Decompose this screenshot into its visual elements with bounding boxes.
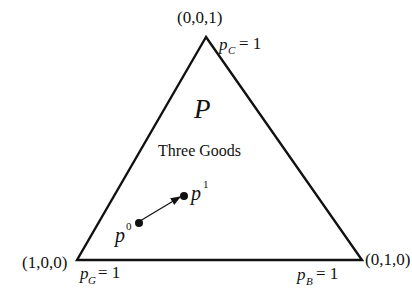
vertex-bottom-right-price-var: p [296,265,306,284]
vertex-bottom-right-coord: (0,1,0) [365,250,410,269]
vertex-top-price-sub: C [228,44,236,56]
price-simplex-diagram: (0,0,1) p C = 1 (1,0,0) p G = 1 (0,1,0) … [0,0,412,303]
point-p0-label: p [113,224,125,247]
vertex-bottom-right-price-eq: = 1 [316,264,338,283]
point-p0 [135,219,143,227]
point-p1-superscript: 1 [203,178,209,190]
vertex-top-price-eq: = 1 [239,34,261,53]
vertex-top-price-var: p [218,35,228,54]
vertex-bottom-left-coord: (1,0,0) [22,253,67,272]
point-p1-label: p [189,182,201,205]
simplex-subtitle: Three Goods [158,142,241,159]
vertex-bottom-left-price-eq: = 1 [98,263,120,282]
point-p1 [180,192,188,200]
point-p0-superscript: 0 [126,220,132,232]
vertex-top-coord: (0,0,1) [177,8,222,27]
price-change-arrow [140,197,180,221]
vertex-bottom-right-price-sub: B [306,275,313,287]
simplex-symbol: P [193,94,211,124]
vertex-bottom-left-price-sub: G [88,274,96,286]
